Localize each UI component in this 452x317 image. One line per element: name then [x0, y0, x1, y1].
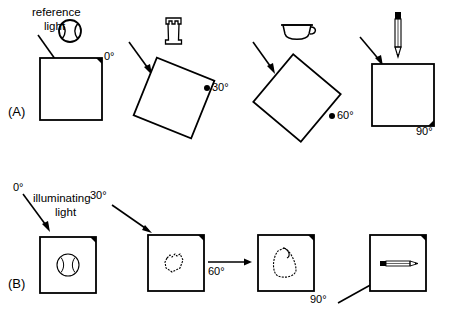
corner-marker-a-30deg — [204, 85, 210, 91]
corner-marker-a-60deg — [329, 113, 335, 119]
reference-light-arrow-2 — [129, 42, 152, 75]
square-a-90deg — [372, 64, 434, 126]
angle-label-a-30: 30° — [212, 82, 229, 94]
angle-label-b-0: 0° — [13, 182, 24, 194]
panel-b-label: (B) — [8, 277, 25, 291]
reference-light-arrow-3 — [253, 42, 275, 74]
cup-icon — [281, 25, 315, 39]
pencil-icon — [395, 12, 401, 57]
square-b-30deg — [148, 235, 204, 291]
figure-svg — [0, 0, 452, 317]
figure-canvas: reference light (A) 0° 30° 60° 90° 0° il… — [0, 0, 452, 317]
angle-label-a-0: 0° — [104, 51, 115, 63]
panel-a-label: (A) — [8, 105, 25, 119]
reference-light-caption-line1: reference — [32, 6, 81, 18]
square-a-0deg — [40, 58, 102, 120]
reference-light-caption-line2: light — [44, 20, 65, 32]
angle-label-b-60: 60° — [208, 266, 225, 278]
illuminating-light-caption-line1: illuminating — [33, 192, 91, 204]
square-a-60deg — [253, 54, 340, 141]
angle-label-b-90: 90° — [310, 294, 327, 306]
illuminating-light-arrow-30deg — [112, 205, 152, 233]
rook-icon — [166, 18, 182, 44]
illuminating-light-caption-line2: light — [55, 206, 76, 218]
square-a-30deg — [134, 58, 215, 139]
angle-label-a-60: 60° — [337, 110, 354, 122]
angle-label-a-90: 90° — [416, 126, 433, 138]
reference-light-arrow-4 — [360, 37, 383, 66]
square-b-60deg — [258, 235, 314, 291]
square-b-0deg — [40, 237, 96, 293]
angle-label-b-30: 30° — [90, 190, 107, 202]
